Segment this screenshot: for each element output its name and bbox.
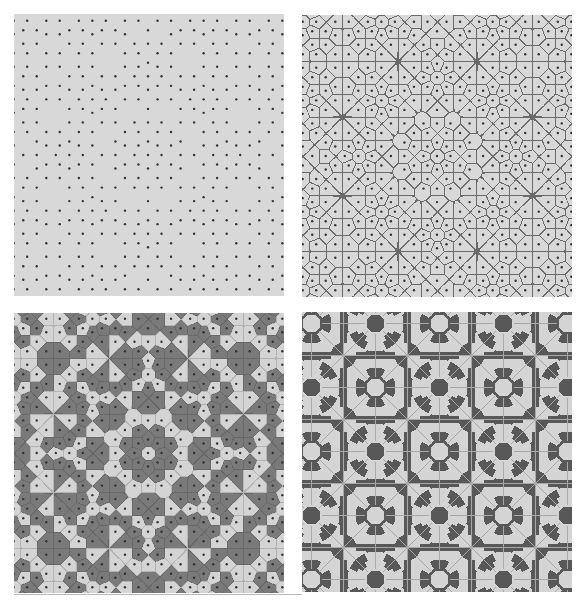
voronoi-panel <box>302 15 572 297</box>
figure-caption <box>14 598 570 603</box>
colored-voronoi-panel <box>14 313 284 593</box>
point-set-panel <box>14 14 284 296</box>
bottom-rule <box>14 594 302 595</box>
periodic-tiling-panel <box>302 312 572 592</box>
